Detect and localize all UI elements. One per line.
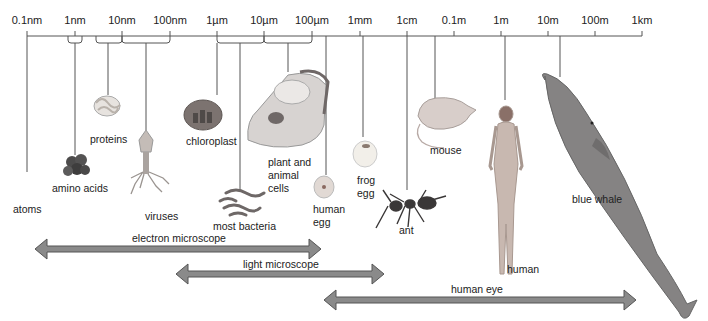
label-viruses: viruses [145, 210, 178, 223]
label-human-egg: human egg [313, 203, 345, 229]
tick-1km: 1km [632, 14, 653, 26]
tick-10um: 10µm [250, 14, 278, 26]
range-arrows [35, 239, 636, 310]
tick-1nm: 1nm [64, 14, 85, 26]
tick-10m: 10m [537, 14, 558, 26]
label-proteins: proteins [90, 133, 127, 146]
tick-100nm: 100nm [153, 14, 187, 26]
scale-diagram [0, 0, 708, 321]
chloroplast-icon [184, 100, 222, 130]
label-frog-egg: frog egg [357, 174, 375, 200]
label-light-microscope: light microscope [243, 258, 319, 271]
tick-1cm: 1cm [397, 14, 418, 26]
tick-0-1nm: 0.1nm [12, 14, 43, 26]
label-chloroplast: chloroplast [186, 135, 237, 148]
tick-1mm: 1mm [348, 14, 372, 26]
virus-icon [131, 130, 169, 194]
label-blue-whale: blue whale [572, 193, 622, 206]
tick-100um: 100µm [295, 14, 329, 26]
label-human: human [507, 263, 539, 276]
frog-egg-icon [353, 141, 377, 167]
mouse-icon [417, 98, 476, 148]
tick-100m: 100m [581, 14, 609, 26]
label-amino-acids: amino acids [52, 182, 108, 195]
human-icon [490, 106, 522, 274]
label-ant: ant [399, 224, 414, 237]
tick-1m: 1m [493, 14, 508, 26]
cells-icon [248, 71, 328, 147]
tick-10nm: 10nm [108, 14, 136, 26]
human-egg-icon [314, 176, 334, 198]
label-mouse: mouse [430, 144, 462, 157]
label-human-eye: human eye [451, 283, 503, 296]
ant-icon [376, 190, 446, 228]
label-atoms: atoms [13, 203, 42, 216]
amino-acids-icon [63, 154, 90, 176]
bacteria-icon [220, 190, 264, 215]
label-cells: plant and animal cells [268, 156, 311, 195]
tick-1um: 1µm [206, 14, 228, 26]
label-electron-microscope: electron microscope [132, 232, 226, 245]
tick-0-1m: 0.1m [442, 14, 466, 26]
proteins-icon [94, 96, 120, 116]
